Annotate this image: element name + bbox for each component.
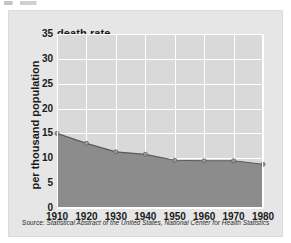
- y-axis-tick-label: 35: [13, 28, 53, 39]
- y-axis-tick-label: 25: [13, 78, 53, 89]
- plot-area: [57, 34, 263, 208]
- data-point-marker: [114, 150, 118, 154]
- grid-line-vertical: [263, 34, 264, 208]
- death-rate-area-series: [57, 34, 263, 208]
- y-axis-tick-label: 5: [13, 177, 53, 188]
- data-point-marker: [231, 159, 235, 163]
- data-point-marker: [173, 158, 177, 162]
- y-axis-tick-label: 10: [13, 152, 53, 163]
- source-note: Source: Statistical Abstract of the Unit…: [22, 219, 269, 226]
- data-point-marker: [202, 159, 206, 163]
- source-label: Source:: [22, 219, 45, 226]
- chart-panel: death rate per thousand population 05101…: [8, 10, 283, 237]
- y-axis-tick-label: 30: [13, 53, 53, 64]
- data-point-marker: [84, 141, 88, 145]
- y-axis-tick-label: 15: [13, 127, 53, 138]
- scan-artifact: [4, 1, 56, 5]
- data-point-marker: [143, 152, 147, 156]
- data-point-marker: [55, 131, 59, 135]
- chart-figure: death rate per thousand population 05101…: [0, 0, 291, 243]
- y-axis-tick-label: 20: [13, 103, 53, 114]
- source-text: Statistical Abstract of the United State…: [45, 219, 270, 226]
- data-point-marker: [261, 162, 265, 166]
- grid-line-horizontal: [57, 208, 263, 209]
